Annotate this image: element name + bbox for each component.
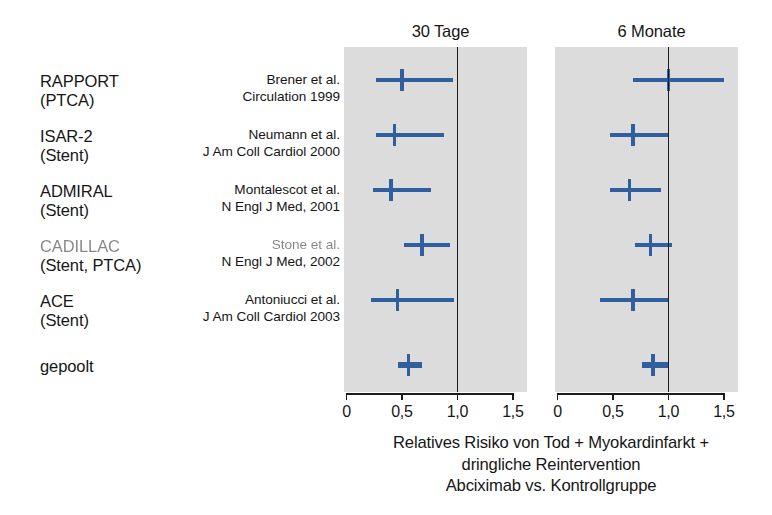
- panel-title-6-monate: 6 Monate: [560, 22, 743, 41]
- study-journal: J Am Coll Cardiol 2003: [110, 308, 340, 326]
- x-axis-tick: [401, 393, 403, 400]
- confidence-interval-bar: [373, 188, 431, 191]
- forest-plot-figure: RAPPORT(PTCA)Brener et al.Circulation 19…: [0, 0, 772, 515]
- x-axis-tick-label: 1,0: [438, 403, 478, 421]
- x-axis-tick-label: 0,5: [593, 403, 633, 421]
- study-subtitle: (PTCA): [40, 90, 94, 110]
- study-journal: N Engl J Med, 2002: [110, 253, 340, 271]
- reference-line: [457, 47, 459, 392]
- x-axis-tick: [512, 393, 514, 400]
- confidence-interval-bar: [635, 243, 672, 246]
- study-name: ADMIRAL: [40, 181, 113, 201]
- x-axis-tick: [723, 393, 725, 400]
- x-axis-tick: [457, 393, 459, 400]
- plot-panel-6-monate: [555, 47, 738, 392]
- x-axis-tick-label: 1,0: [649, 403, 689, 421]
- study-subtitle: (Stent): [40, 145, 89, 165]
- point-estimate-marker: [400, 69, 403, 91]
- confidence-interval-bar: [633, 78, 724, 81]
- study-row: ISAR-2(Stent)Neumann et al.J Am Coll Car…: [28, 126, 340, 174]
- confidence-interval-bar: [376, 133, 444, 136]
- point-estimate-marker: [631, 289, 634, 311]
- x-axis-tick-label: 0: [538, 403, 578, 421]
- confidence-interval-bar: [610, 188, 661, 191]
- study-name: gepoolt: [40, 356, 93, 376]
- x-axis-tick-label: 1,5: [493, 403, 533, 421]
- x-axis-line: [347, 393, 514, 395]
- x-axis-tick-label: 1,5: [704, 403, 744, 421]
- study-author: Brener et al.: [110, 71, 340, 89]
- point-estimate-marker: [396, 289, 399, 311]
- study-name: ISAR-2: [40, 126, 93, 146]
- x-axis-tick: [668, 393, 670, 400]
- panel-title-30-tage: 30 Tage: [349, 22, 532, 41]
- study-journal: J Am Coll Cardiol 2000: [110, 143, 340, 161]
- point-estimate-marker: [393, 124, 396, 146]
- point-estimate-marker: [631, 124, 634, 146]
- study-row: RAPPORT(PTCA)Brener et al.Circulation 19…: [28, 71, 340, 119]
- point-estimate-marker: [651, 354, 654, 376]
- x-axis-tick: [346, 393, 348, 400]
- study-author: Neumann et al.: [110, 126, 340, 144]
- x-axis-tick-label: 0,5: [382, 403, 422, 421]
- x-axis-line: [558, 393, 725, 395]
- point-estimate-marker: [628, 179, 631, 201]
- study-author: Antoniucci et al.: [110, 291, 340, 309]
- study-author: Stone et al.: [110, 236, 340, 254]
- caption-line: Relatives Risiko von Tod + Myokardinfark…: [330, 432, 772, 454]
- study-subtitle: (Stent): [40, 200, 89, 220]
- study-journal: N Engl J Med, 2001: [110, 198, 340, 216]
- study-name: CADILLAC: [40, 236, 120, 256]
- point-estimate-marker: [649, 234, 652, 256]
- confidence-interval-bar: [610, 133, 669, 136]
- study-row: ACE(Stent)Antoniucci et al.J Am Coll Car…: [28, 291, 340, 339]
- study-author: Montalescot et al.: [110, 181, 340, 199]
- confidence-interval-bar: [642, 362, 669, 368]
- study-name: ACE: [40, 291, 74, 311]
- caption-line: dringliche Reintervention: [330, 454, 772, 476]
- study-row: ADMIRAL(Stent)Montalescot et al.N Engl J…: [28, 181, 340, 229]
- x-axis-tick: [557, 393, 559, 400]
- caption-line: Abciximab vs. Kontrollgruppe: [330, 475, 772, 497]
- figure-caption: Relatives Risiko von Tod + Myokardinfark…: [330, 432, 772, 497]
- point-estimate-marker: [420, 234, 423, 256]
- point-estimate-marker: [407, 354, 410, 376]
- study-name: RAPPORT: [40, 71, 119, 91]
- plot-panel-30-tage: [344, 47, 527, 392]
- point-estimate-marker: [389, 179, 392, 201]
- x-axis-tick: [612, 393, 614, 400]
- confidence-interval-bar: [371, 298, 454, 301]
- study-journal: Circulation 1999: [110, 88, 340, 106]
- reference-line: [668, 47, 670, 392]
- study-subtitle: (Stent): [40, 310, 89, 330]
- x-axis-tick-label: 0: [327, 403, 367, 421]
- confidence-interval-bar: [404, 243, 450, 246]
- confidence-interval-bar: [376, 78, 453, 81]
- study-row: CADILLAC(Stent, PTCA)Stone et al.N Engl …: [28, 236, 340, 284]
- study-row: gepoolt: [28, 356, 340, 404]
